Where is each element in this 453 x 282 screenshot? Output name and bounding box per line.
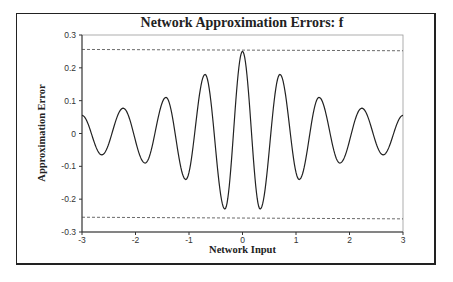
y-tick-label: -0.1 bbox=[61, 161, 76, 171]
x-tick-label: 3 bbox=[401, 235, 406, 245]
y-tick-label: 0 bbox=[71, 129, 76, 139]
plot-border bbox=[82, 35, 403, 232]
y-tick-label: 0.1 bbox=[64, 96, 76, 106]
y-tick-label: -0.2 bbox=[61, 194, 76, 204]
x-tick-label: -3 bbox=[78, 235, 86, 245]
x-tick-label: 2 bbox=[347, 235, 352, 245]
x-tick-label: 1 bbox=[294, 235, 299, 245]
x-tick-label: -2 bbox=[132, 235, 140, 245]
series-group bbox=[82, 49, 403, 218]
x-tick-label: 0 bbox=[240, 235, 245, 245]
y-tick-label: 0.2 bbox=[64, 63, 76, 73]
bound-line bbox=[82, 217, 403, 219]
x-ticks: -3-2-10123 bbox=[78, 232, 405, 245]
y-ticks: 0.30.20.10-0.1-0.2-0.3 bbox=[61, 30, 82, 237]
plot-area: 0.30.20.10-0.1-0.2-0.3 -3-2-10123 bbox=[0, 0, 453, 282]
bound-line bbox=[82, 49, 403, 50]
y-tick-label: 0.3 bbox=[64, 30, 76, 40]
error-curve bbox=[82, 51, 403, 209]
y-tick-label: -0.3 bbox=[61, 227, 76, 237]
x-tick-label: -1 bbox=[185, 235, 193, 245]
